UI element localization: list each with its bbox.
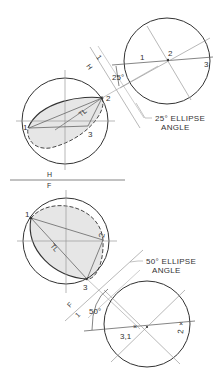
aux-h1-leader xyxy=(136,103,152,118)
aux-h1-label-2: 2 xyxy=(168,49,173,58)
ellipse-angle-diagram: 1 2 3 TL H 1 1 2 3 25° 25° ELLIPSE ANGLE… xyxy=(0,0,221,384)
top-label-3: 3 xyxy=(88,130,93,139)
front-ellipse-shade xyxy=(30,206,103,279)
aux-h1-label-3: 3 xyxy=(204,60,209,69)
aux-f1-angle: 50° xyxy=(89,307,101,316)
fold-f1-label-f: F xyxy=(66,301,74,309)
aux-h1-perp xyxy=(147,26,191,100)
aux-f1-mark-31: × xyxy=(133,323,137,330)
caption-50-line1: 50° ELLIPSE xyxy=(146,257,196,266)
aux-f1-mark-2: × xyxy=(179,320,183,327)
fold-h1-label-1: 1 xyxy=(95,54,103,61)
front-label-3: 3 xyxy=(83,283,88,292)
top-view: 1 2 3 TL xyxy=(16,70,115,170)
aux-f1-diag-b xyxy=(111,290,185,362)
aux-h1-center xyxy=(167,59,169,61)
caption-25-line2: ANGLE xyxy=(161,123,190,132)
fold-h1-label-h: H xyxy=(85,63,94,71)
front-label-1: 1 xyxy=(25,210,30,219)
projector-3-f1 xyxy=(87,279,140,329)
fold-f1-label-1: 1 xyxy=(74,311,82,319)
aux-h1-edge-line xyxy=(112,57,213,65)
aux-f1-label-31: 3,1 xyxy=(120,332,132,341)
fold-hf-label-h: H xyxy=(47,171,52,178)
aux-h1-label-1: 1 xyxy=(140,53,145,62)
caption-50-line2: ANGLE xyxy=(152,266,181,275)
fold-hf: H F xyxy=(10,171,125,189)
aux-h1-angle: 25° xyxy=(112,73,124,82)
front-point-1 xyxy=(30,217,33,220)
aux-f1-label-2: 2 xyxy=(176,328,185,334)
aux-f1-circle xyxy=(104,281,190,367)
aux-view-h1: H 1 1 2 3 25° 25° ELLIPSE ANGLE xyxy=(85,18,213,132)
top-label-1: 1 xyxy=(23,123,28,132)
front-view: 1 2 3 TL xyxy=(17,190,117,293)
aux-f1-center xyxy=(146,326,148,328)
fold-line-h1-b xyxy=(98,46,144,118)
fold-hf-label-f: F xyxy=(47,182,51,189)
caption-25-line1: 25° ELLIPSE xyxy=(155,114,205,123)
aux-f1-leader xyxy=(130,261,143,262)
